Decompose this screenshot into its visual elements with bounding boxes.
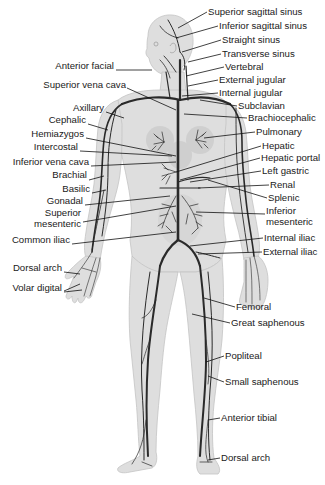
label-left-gastric: Left gastric [262,165,309,176]
label-femoral: Femoral [236,301,271,312]
label-hepatic-portal: Hepatic portal [261,152,320,163]
label-dorsal-arch-foot: Dorsal arch [221,452,270,463]
label-anterior-tibial: Anterior tibial [221,412,277,423]
label-inferior-mesenteric: Inferior mesenteric [266,205,325,227]
label-small-saphenous: Small saphenous [225,376,299,387]
label-transverse-sinus: Transverse sinus [222,48,295,59]
label-brachial: Brachial [52,169,87,180]
label-cephalic: Cephalic [49,114,86,125]
label-brachiocephalic: Brachiocephalic [248,112,316,123]
label-dorsal-arch-hand: Dorsal arch [13,262,62,273]
label-external-jugular: External jugular [219,74,286,85]
label-superior-mesenteric: Superior mesenteric [21,207,81,229]
label-hepatic: Hepatic [262,140,295,151]
label-straight-sinus: Straight sinus [222,34,280,45]
label-axillary: Axillary [73,102,104,113]
label-gonadal: Gonadal [47,195,83,206]
label-subclavian: Subclavian [238,100,285,111]
label-vertebral: Vertebral [225,61,263,72]
label-superior-vena-cava: Superior vena cava [43,79,126,90]
label-anterior-facial: Anterior facial [55,60,114,71]
label-common-iliac: Common iliac [12,234,70,245]
label-external-iliac: External iliac [263,246,317,257]
label-inferior-vena-cava: Inferior vena cava [13,156,89,167]
label-inferior-sagittal-sinus: Inferior sagittal sinus [219,20,307,31]
label-pulmonary: Pulmonary [256,126,302,137]
label-hemiazygos: Hemiazygos [31,128,84,139]
label-basilic: Basilic [62,183,90,194]
label-splenic: Splenic [268,192,299,203]
label-renal: Renal [270,179,295,190]
label-internal-iliac: Internal iliac [264,232,315,243]
label-popliteal: Popliteal [225,350,262,361]
label-internal-jugular: Internal jugular [219,87,282,98]
label-volar-digital: Volar digital [12,282,62,293]
label-intercostal: Intercostal [34,141,78,152]
label-great-saphenous: Great saphenous [231,317,305,328]
label-superior-sagittal-sinus: Superior sagittal sinus [208,6,302,17]
